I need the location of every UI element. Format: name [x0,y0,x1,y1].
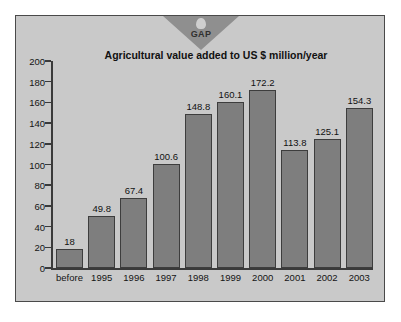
gap-logo-label: GAP [163,29,239,39]
y-tick-label: 200 [5,57,45,66]
bar-2002 [314,139,341,268]
y-tick-label: 0 [5,264,45,273]
y-tick-mark [45,102,51,104]
gap-logo: GAP [163,16,239,50]
y-tick-mark [45,81,51,83]
y-tick-label: 160 [5,98,45,107]
bar-value-label: 154.3 [340,96,379,106]
gap-emblem-icon [196,18,206,29]
y-tick-mark [45,122,51,124]
y-tick-label: 180 [5,78,45,87]
y-tick-mark [45,60,51,62]
chart-panel: GAP Agricultural value added to US $ mil… [15,15,385,302]
x-category-label: 2003 [340,272,379,283]
y-tick-mark [45,205,51,207]
y-tick-label: 80 [5,181,45,190]
bar-value-label: 113.8 [275,138,314,148]
bar-2003 [346,108,373,268]
bar-value-label: 125.1 [308,127,347,137]
y-tick-label: 40 [5,223,45,232]
bar-before [56,249,83,268]
bar-value-label: 172.2 [243,78,282,88]
bar-1996 [120,198,147,268]
bar-value-label: 148.8 [179,102,218,112]
bar-value-label: 67.4 [114,186,153,196]
y-tick-label: 20 [5,243,45,252]
x-axis-line [51,268,373,270]
bar-1998 [185,114,212,268]
bar-value-label: 49.8 [82,204,121,214]
bar-value-label: 160.1 [211,90,250,100]
y-tick-mark [45,184,51,186]
bar-value-label: 100.6 [147,152,186,162]
y-tick-mark [45,164,51,166]
y-tick-label: 120 [5,140,45,149]
y-tick-mark [45,226,51,228]
y-tick-label: 100 [5,161,45,170]
bar-1997 [153,164,180,268]
y-tick-label: 140 [5,119,45,128]
y-tick-mark [45,267,51,269]
bar-2000 [249,90,276,268]
bar-1999 [217,102,244,268]
chart-title: Agricultural value added to US $ million… [56,49,376,61]
bar-1995 [88,216,115,268]
bar-2001 [281,150,308,268]
y-tick-mark [45,143,51,145]
y-tick-label: 60 [5,202,45,211]
bar-value-label: 18 [50,237,89,247]
